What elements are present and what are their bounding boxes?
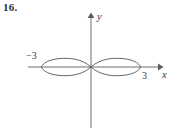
- x-tick-label-positive-three: 3: [142, 70, 147, 81]
- polar-plot: y x −3 3: [0, 0, 175, 135]
- x-axis-label: x: [161, 69, 167, 80]
- y-axis-label: y: [96, 11, 102, 22]
- x-tick-label-negative-three: −3: [26, 50, 37, 61]
- figure-container: 16. y x −3 3: [0, 0, 175, 135]
- y-axis-arrowhead: [88, 13, 95, 19]
